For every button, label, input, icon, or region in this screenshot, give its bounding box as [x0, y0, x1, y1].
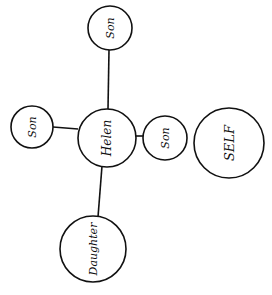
node-son-right: Son — [143, 116, 187, 160]
node-label: Son — [159, 127, 172, 148]
family-diagram: Son Son Helen Son SELF Daughter — [0, 0, 272, 295]
node-self: SELF — [194, 108, 264, 178]
node-label: Son — [104, 17, 117, 38]
node-helen: Helen — [78, 109, 136, 167]
node-label: SELF — [222, 124, 237, 161]
node-label: Daughter — [87, 222, 100, 277]
edge-helen-daughter — [98, 166, 102, 217]
node-label: Helen — [100, 120, 114, 157]
node-label: Son — [26, 116, 39, 137]
node-daughter: Daughter — [60, 216, 126, 282]
edge-helen-son-left — [53, 127, 78, 129]
node-son-left: Son — [11, 106, 53, 148]
node-son-top: Son — [88, 6, 132, 50]
edge-helen-son-top — [108, 50, 109, 109]
